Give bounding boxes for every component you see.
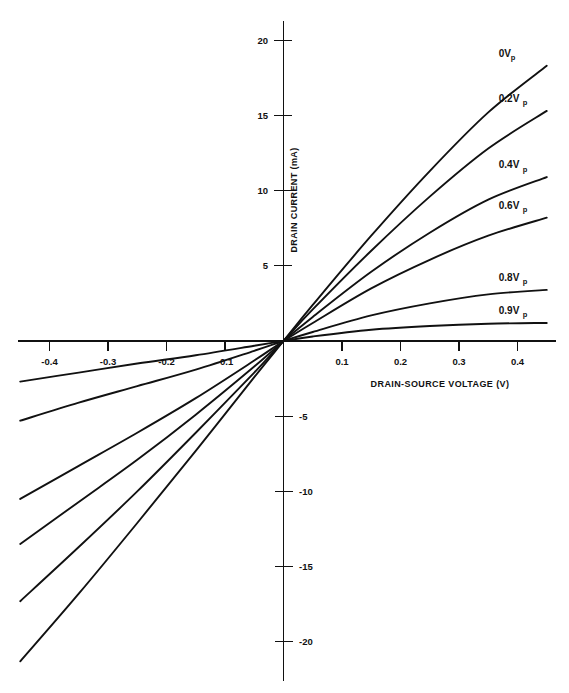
y-tick-label: -5 — [299, 411, 308, 422]
y-tick-label: 10 — [257, 185, 268, 196]
y-tick-label: 5 — [263, 260, 269, 271]
curve-label-0-6Vp: 0.6Vp — [499, 200, 528, 215]
curve-label-main: 0.2V — [499, 93, 520, 104]
curve-label-subscript: p — [523, 165, 528, 174]
x-tick-label: -0.4 — [41, 356, 58, 367]
y-tick-label: -10 — [299, 486, 313, 497]
x-tick-label: -0.3 — [100, 356, 116, 367]
curve-label-0-8Vp: 0.8Vp — [499, 272, 528, 287]
curve-label-main: 0.8V — [499, 272, 520, 283]
chart-figure: -0.4-0.3-0.2-0.10.10.20.30.4 2015105-5-1… — [0, 0, 569, 693]
x-axis-title: DRAIN-SOURCE VOLTAGE (V) — [371, 379, 510, 389]
curve-label-main: 0V — [499, 48, 512, 59]
curve-label-0-2Vp: 0.2Vp — [499, 93, 528, 108]
x-tick-label: 0.4 — [511, 356, 525, 367]
y-tick-label: 20 — [257, 35, 268, 46]
curve-label-subscript: p — [523, 98, 528, 107]
curve-labels-group: 0Vp0.2Vp0.4Vp0.6Vp0.8Vp0.9Vp — [499, 48, 528, 320]
curve-label-0-9Vp: 0.9Vp — [499, 305, 528, 320]
curve-label-main: 0.6V — [499, 200, 520, 211]
curve-label-main: 0.4V — [499, 159, 520, 170]
y-tick-label: -20 — [299, 636, 313, 647]
y-tick-label: -15 — [299, 561, 313, 572]
curve-label-main: 0.9V — [499, 305, 520, 316]
x-tick-label: -0.2 — [158, 356, 174, 367]
y-tick-label: 15 — [257, 110, 268, 121]
y-axis-title: DRAIN CURRENT (mA) — [289, 147, 299, 252]
iv-characteristic-chart: -0.4-0.3-0.2-0.10.10.20.30.4 2015105-5-1… — [0, 0, 569, 693]
curve-label-0-4Vp: 0.4Vp — [499, 159, 528, 174]
curve-label-subscript: p — [523, 205, 528, 214]
x-tick-label: 0.1 — [335, 356, 349, 367]
curve-label-subscript: p — [523, 277, 528, 286]
curve-label-subscript: p — [511, 53, 516, 62]
x-tick-label: 0.2 — [394, 356, 407, 367]
curve-label-0Vp: 0Vp — [499, 48, 516, 63]
axes-group — [18, 21, 556, 681]
curve-label-subscript: p — [523, 310, 528, 319]
x-tick-label: 0.3 — [452, 356, 465, 367]
